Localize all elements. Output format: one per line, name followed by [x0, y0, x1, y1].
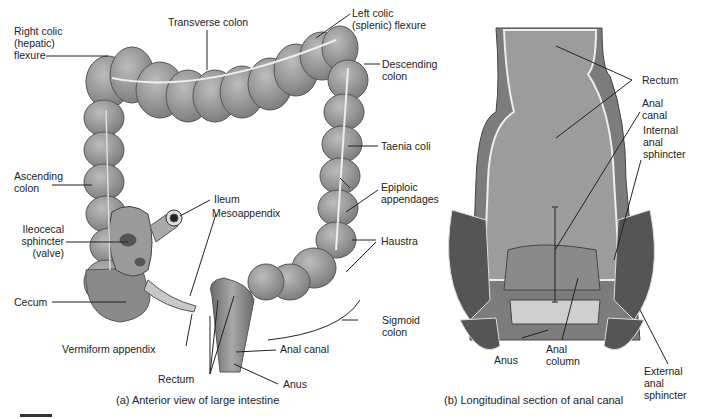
- label-mesoappendix: Mesoappendix: [212, 207, 280, 219]
- caption-figure-b: (b) Longitudinal section of anal canal: [444, 394, 623, 406]
- label-anal-canal-b: Anal canal: [642, 97, 667, 121]
- label-transverse-colon: Transverse colon: [168, 16, 248, 28]
- anatomy-illustration: [0, 0, 704, 419]
- scale-bar: [20, 414, 52, 417]
- label-ileum: Ileum: [214, 193, 240, 205]
- label-taenia-coli: Taenia coli: [381, 140, 431, 152]
- label-rectum-a: Rectum: [158, 373, 194, 385]
- label-haustra: Haustra: [381, 235, 418, 247]
- label-vermiform-appendix: Vermiform appendix: [62, 343, 155, 355]
- label-sigmoid-colon: Sigmoid colon: [382, 314, 420, 338]
- label-descending-colon: Descending colon: [382, 58, 437, 82]
- label-anus-a: Anus: [283, 378, 307, 390]
- label-external-anal-sphincter: External anal sphincter: [644, 365, 687, 401]
- label-right-colic-flexure: Right colic (hepatic) flexure: [14, 25, 62, 61]
- label-ileocecal-sphincter: Ileocecal sphincter (valve): [14, 223, 64, 259]
- label-rectum-b: Rectum: [642, 74, 678, 86]
- caption-figure-a: (a) Anterior view of large intestine: [116, 394, 279, 406]
- label-left-colic-flexure: Left colic (splenic) flexure: [352, 7, 426, 31]
- label-cecum: Cecum: [14, 296, 47, 308]
- label-anus-b: Anus: [494, 354, 518, 366]
- label-internal-anal-sphincter: Internal anal sphincter: [643, 124, 686, 160]
- label-anal-column: Anal column: [546, 343, 580, 367]
- label-ascending-colon: Ascending colon: [14, 170, 63, 194]
- label-anal-canal-a: Anal canal: [280, 343, 329, 355]
- label-epiploic-appendages: Epiploic appendages: [381, 181, 439, 205]
